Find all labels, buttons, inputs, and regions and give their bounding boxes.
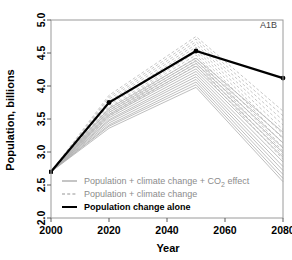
ensemble-line-dashed [51, 37, 283, 172]
chart-legend: Population + climate change + CO2 effect… [62, 176, 250, 212]
series-population-climate-co2-lines [51, 58, 283, 181]
legend-label-tail: effect [225, 176, 250, 186]
x-tick-label: 2020 [97, 224, 121, 236]
legend-label: Population + climate change [84, 189, 197, 199]
ensemble-line [51, 64, 283, 172]
x-tick-label: 2040 [155, 224, 179, 236]
panel-label: A1B [260, 20, 277, 30]
y-axis-title: Population, billions [4, 69, 16, 170]
ensemble-line-dashed [51, 47, 283, 172]
legend-label: Population + climate change + CO2 effect [84, 176, 250, 188]
y-tick-label: 3.5 [35, 112, 47, 127]
ensemble-line-dashed [51, 39, 283, 172]
y-tick-label: 5.0 [35, 13, 47, 28]
ensemble-line-dashed [51, 63, 283, 172]
ensemble-line [51, 69, 283, 172]
x-tick-label: 2080 [271, 224, 292, 236]
y-tick-label: 3.0 [35, 145, 47, 160]
y-tick-label: 4.0 [35, 79, 47, 94]
ensemble-line-dashed [51, 55, 283, 172]
x-axis-title: Year [156, 242, 180, 254]
chart-figure: 2.02.53.03.54.04.55.02000202020402060208… [0, 0, 292, 260]
series-population-alone-line [49, 49, 285, 174]
y-tick-label: 4.5 [35, 46, 47, 61]
y-tick-label: 2.5 [35, 178, 47, 193]
population-projection-chart: 2.02.53.03.54.04.55.02000202020402060208… [0, 0, 292, 260]
data-point-marker [194, 49, 199, 54]
ensemble-line [51, 77, 283, 172]
data-point-marker [107, 100, 112, 105]
ensemble-line-dashed [51, 52, 283, 171]
ensemble-line [51, 82, 283, 174]
series-population-climate-lines [51, 37, 283, 172]
legend-label: Population change alone [84, 202, 191, 212]
x-tick-label: 2060 [213, 224, 237, 236]
ensemble-line [51, 61, 283, 172]
x-tick-label: 2000 [39, 224, 63, 236]
